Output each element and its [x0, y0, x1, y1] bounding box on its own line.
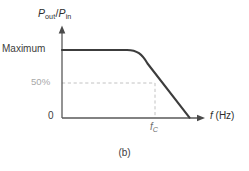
y-axis-label-p-out: P: [38, 7, 45, 19]
origin-label: 0: [48, 111, 54, 121]
response-curve: [62, 50, 190, 118]
y-axis-arrow-icon: [59, 26, 66, 34]
frequency-response-figure: Pout/Pin Maximum 50% 0 fC f (Hz) (b): [0, 0, 249, 171]
maximum-level-label: Maximum: [2, 44, 45, 54]
cutoff-frequency-label: fC: [150, 122, 158, 133]
figure-caption: (b): [0, 148, 249, 158]
cutoff-frequency-subscript: C: [153, 125, 158, 134]
x-axis-label: f (Hz): [210, 111, 234, 121]
half-power-level-label: 50%: [31, 77, 50, 87]
y-axis-label-in-subscript: in: [66, 12, 72, 21]
y-axis-label: Pout/Pin: [38, 8, 71, 20]
x-axis-label-unit: (Hz): [213, 110, 235, 121]
y-axis-label-out-subscript: out: [45, 12, 55, 21]
x-axis-arrow-icon: [197, 115, 205, 122]
y-axis-label-p-in: P: [59, 7, 66, 19]
